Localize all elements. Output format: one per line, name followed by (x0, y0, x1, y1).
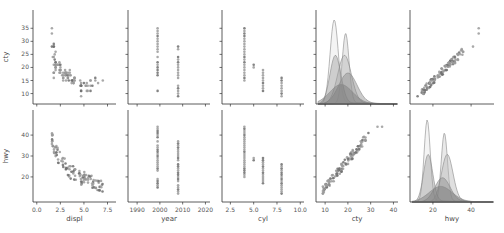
data-point (87, 178, 90, 181)
data-point (345, 163, 348, 166)
data-point (156, 125, 159, 128)
data-point (80, 82, 83, 85)
data-point (358, 148, 361, 151)
data-point (362, 136, 365, 139)
x-tick-label: 2.5 (226, 206, 236, 213)
data-point (156, 90, 159, 93)
data-point (56, 147, 59, 150)
data-point (94, 79, 97, 82)
data-point (53, 148, 56, 151)
data-point (177, 58, 180, 61)
data-point (73, 79, 76, 82)
data-point (243, 69, 246, 72)
data-point (64, 69, 67, 72)
data-point (262, 71, 265, 74)
data-point (177, 90, 180, 93)
data-point (177, 61, 180, 64)
data-point (86, 84, 89, 87)
x-axis-label: hwy (445, 215, 459, 223)
x-tick-label: 30 (367, 206, 375, 213)
data-point (444, 65, 447, 68)
data-point (441, 68, 444, 71)
data-point (59, 64, 62, 67)
data-point (454, 56, 457, 59)
x-tick-label: 7.5 (103, 206, 113, 213)
data-point (64, 162, 67, 165)
data-point (243, 27, 246, 30)
axes-hwy-year: 1990200020102020year (126, 110, 214, 223)
x-tick-label: 20 (429, 206, 437, 213)
data-point (243, 35, 246, 38)
x-tick-label: 5.0 (249, 206, 259, 213)
data-point (336, 174, 339, 177)
data-point (243, 74, 246, 77)
data-point (177, 48, 180, 51)
data-point (447, 62, 450, 65)
y-tick-label: 40 (21, 131, 29, 138)
data-point (156, 140, 159, 143)
data-point (252, 66, 255, 69)
data-point (177, 95, 180, 98)
data-point (456, 58, 459, 61)
data-point (322, 192, 325, 195)
data-point (243, 30, 246, 33)
data-point (101, 190, 104, 193)
data-point (156, 74, 159, 77)
data-point (477, 27, 480, 30)
panel-cty-vs-year (156, 27, 179, 97)
data-point (65, 168, 68, 171)
axes-cty-year (126, 10, 211, 107)
data-point (262, 74, 265, 77)
panel-cty-vs-displ (51, 27, 104, 98)
x-tick-label: 2.5 (56, 206, 66, 213)
data-point (53, 77, 56, 80)
x-axis-label: displ (66, 215, 82, 223)
data-point (447, 66, 450, 69)
data-point (101, 183, 104, 186)
data-point (177, 56, 180, 59)
data-point (252, 64, 255, 67)
data-point (177, 163, 180, 166)
data-point (68, 168, 71, 171)
panel-hwy-vs-cyl (243, 125, 283, 195)
data-point (72, 172, 75, 175)
data-point (425, 85, 428, 88)
data-point (68, 165, 71, 168)
data-point (177, 140, 180, 143)
data-point (156, 45, 159, 48)
x-axis-label: cty (352, 215, 363, 223)
data-point (177, 84, 180, 87)
data-point (156, 69, 159, 72)
data-point (477, 32, 480, 35)
data-point (61, 74, 64, 77)
data-point (262, 84, 265, 87)
data-point (58, 61, 61, 64)
data-point (156, 144, 159, 147)
data-point (92, 179, 95, 182)
data-point (423, 87, 426, 90)
data-point (80, 180, 83, 183)
panel-cty-vs-cyl (243, 27, 283, 97)
data-point (280, 82, 283, 85)
data-point (361, 139, 364, 142)
data-point (177, 74, 180, 77)
data-point (69, 177, 72, 180)
panels-layer (51, 20, 493, 202)
data-point (67, 71, 70, 74)
data-point (243, 61, 246, 64)
data-point (51, 27, 54, 30)
data-point (156, 40, 159, 43)
data-point (82, 175, 85, 178)
data-point (53, 53, 56, 56)
x-tick-label: 1990 (129, 206, 144, 213)
data-point (74, 168, 77, 171)
data-point (330, 180, 333, 183)
data-point (456, 53, 459, 56)
data-point (361, 145, 364, 148)
data-point (53, 71, 56, 74)
data-point (357, 145, 360, 148)
x-tick-label: 2000 (152, 206, 167, 213)
data-point (177, 66, 180, 69)
data-point (79, 79, 82, 82)
data-point (243, 66, 246, 69)
